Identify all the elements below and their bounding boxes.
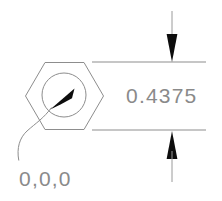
origin-leader-line [18,108,51,161]
cad-drawing-canvas: 0.4375 0,0,0 [0,0,222,201]
technical-drawing-svg: 0.4375 0,0,0 [0,0,222,201]
bore-circle [42,73,86,117]
origin-leader-arrowhead [50,89,74,110]
origin-datum-label: 0,0,0 [19,167,72,190]
dimension-value-text: 0.4375 [126,84,197,107]
dimension-arrowhead-top [167,34,178,62]
